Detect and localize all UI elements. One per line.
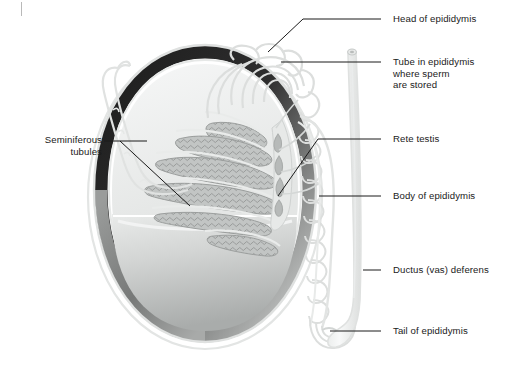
leader-head-of-epididymis-2 bbox=[268, 19, 303, 52]
label-tail-of-epididymis: Tail of epididymis bbox=[393, 325, 468, 337]
label-tube-in-epididymis: Tube in epididymis where sperm are store… bbox=[393, 56, 474, 91]
label-head-of-epididymis: Head of epididymis bbox=[393, 13, 476, 25]
label-ductus-vas-deferens: Ductus (vas) deferens bbox=[393, 264, 489, 276]
label-seminiferous-tubules: Seminiferous tubules bbox=[16, 134, 102, 157]
testis-epididymis-diagram bbox=[0, 0, 513, 365]
label-rete-testis: Rete testis bbox=[393, 133, 439, 145]
label-body-of-epididymis: Body of epididymis bbox=[393, 190, 475, 202]
